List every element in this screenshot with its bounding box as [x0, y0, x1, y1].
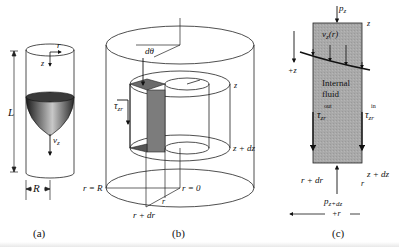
panel-a-radius-label: R [33, 183, 40, 194]
panel-b-r-plus-dr-label: r + dr [133, 211, 155, 220]
cropped-figure-caption [0, 242, 399, 247]
panel-b-z-label: z [234, 82, 237, 90]
panel-b-r-eq-0-label: r = 0 [182, 184, 201, 193]
panel-a-velocity-label: vz [53, 136, 60, 147]
figure-canvas: r z L vz R (a) dθ τzr z z + dz r = R r =… [0, 0, 399, 247]
panel-a-velocity-profile [26, 92, 74, 155]
panel-c-tau-in-label: τzr [365, 110, 374, 122]
panel-c-pz-label: pz [339, 4, 346, 15]
panel-b-z-plus-dz-label: z + dz [233, 144, 255, 153]
panel-b-r-label: r [162, 198, 165, 206]
panel-b-caption: (b) [172, 228, 185, 239]
panel-c-r-plus-dr-label: r + dr [301, 176, 323, 185]
panel-a-length-label: L [8, 107, 14, 118]
panel-a-r-label: r [57, 41, 61, 50]
panel-c-pzdz-label: pz+dz [324, 197, 342, 208]
panel-c-velocity-label: vz(r) [322, 30, 338, 41]
panel-c-plus-z-label: +z [288, 67, 297, 75]
panel-b-tau-label: τzr [114, 101, 123, 113]
panel-a-caption: (a) [33, 228, 45, 239]
panel-b-dtheta-label: dθ [145, 47, 154, 56]
panel-c-tau-out-label: τzr [317, 110, 326, 122]
panel-c-z-label: z [367, 20, 370, 28]
panel-c-caption: (c) [332, 228, 344, 239]
panel-c-tau-in-sup: in [371, 103, 376, 109]
panel-c-fluid-label: fluid [322, 90, 339, 99]
panel-c-plus-r-label: +r [332, 210, 341, 218]
panel-b-r-eq-R-label: r = R [83, 184, 103, 193]
panel-a-z-label: z [41, 60, 44, 68]
panel-c-r-label: r [361, 180, 364, 188]
panel-b-dtheta-lines [136, 18, 180, 57]
panel-c-tau-out-sup: out [324, 103, 332, 109]
panel-c-z-plus-dz-label: z + dz [367, 170, 389, 179]
panel-c-internal-label: Internal [322, 79, 350, 88]
panel-a-axes [50, 52, 61, 66]
